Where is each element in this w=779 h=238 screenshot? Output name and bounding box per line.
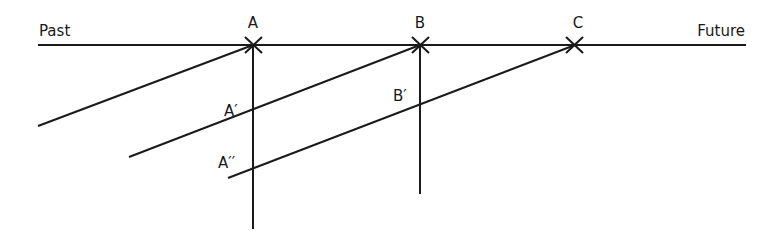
a-double-prime-label: A′′	[218, 154, 236, 172]
past-label: Past	[39, 22, 70, 40]
diagonal-to-c	[228, 45, 575, 178]
a-prime-label: A′	[224, 102, 238, 120]
diagonal-to-a	[38, 45, 253, 126]
timeline-diagram: Past Future A B C A′ A′′ B′	[0, 0, 779, 238]
point-a-label: A	[248, 14, 259, 32]
point-c-label: C	[573, 14, 583, 32]
point-b-label: B	[415, 14, 425, 32]
future-label: Future	[697, 22, 745, 40]
b-prime-label: B′	[393, 87, 407, 105]
diagonal-to-b	[129, 45, 420, 157]
